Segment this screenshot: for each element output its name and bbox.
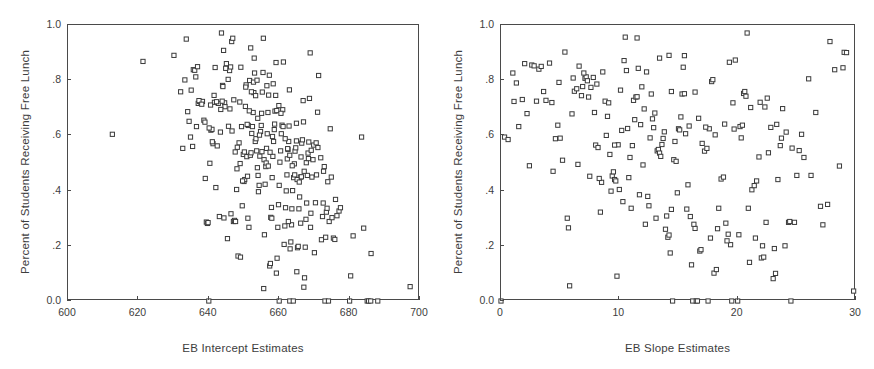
x-tick-mark xyxy=(208,296,209,300)
y-tick-label: .6 xyxy=(470,128,494,140)
y-tick-mark xyxy=(500,300,504,301)
y-tick-mark xyxy=(500,24,504,25)
y-tick-label: .8 xyxy=(37,73,61,85)
x-tick-mark xyxy=(349,296,350,300)
y-tick-mark xyxy=(67,245,71,246)
x-tick-label: 10 xyxy=(612,306,624,318)
y-tick-mark xyxy=(500,190,504,191)
scatter-markers-right xyxy=(501,25,856,301)
y-tick-label: .6 xyxy=(37,128,61,140)
plot-area-right xyxy=(500,24,855,300)
x-tick-mark xyxy=(737,296,738,300)
y-tick-label: .4 xyxy=(470,184,494,196)
x-tick-mark xyxy=(855,296,856,300)
x-tick-label: 700 xyxy=(410,306,428,318)
y-tick-mark xyxy=(500,134,504,135)
x-axis-title-right: EB Slope Estimates xyxy=(500,342,855,354)
y-tick-mark xyxy=(67,190,71,191)
x-tick-label: 600 xyxy=(58,306,76,318)
x-tick-label: 620 xyxy=(129,306,147,318)
x-tick-mark xyxy=(278,296,279,300)
data-points-right xyxy=(501,25,854,299)
y-tick-mark xyxy=(500,245,504,246)
data-points-left xyxy=(68,25,418,299)
scatter-markers-left xyxy=(68,25,420,301)
panel-eb-intercept: Percent of Students Receiving Free Lunch… xyxy=(0,0,437,369)
y-tick-label: .2 xyxy=(37,239,61,251)
x-tick-label: 680 xyxy=(340,306,358,318)
x-axis-title-left: EB Intercept Estimates xyxy=(67,342,419,354)
y-tick-mark xyxy=(67,300,71,301)
y-tick-label: 1.0 xyxy=(37,18,61,30)
x-tick-label: 20 xyxy=(731,306,743,318)
y-axis-title-left: Percent of Students Receiving Free Lunch xyxy=(19,24,31,300)
y-tick-label: .8 xyxy=(470,73,494,85)
x-tick-label: 640 xyxy=(199,306,217,318)
panel-eb-slope: Percent of Students Receiving Free Lunch… xyxy=(437,0,874,369)
y-axis-title-right: Percent of Students Receiving Free Lunch xyxy=(452,24,464,300)
y-tick-label: .4 xyxy=(37,184,61,196)
y-tick-label: .2 xyxy=(470,239,494,251)
x-tick-mark xyxy=(419,296,420,300)
y-tick-label: 0.0 xyxy=(470,294,494,306)
y-tick-label: 1.0 xyxy=(470,18,494,30)
y-tick-mark xyxy=(67,24,71,25)
x-tick-label: 30 xyxy=(849,306,861,318)
x-tick-label: 660 xyxy=(269,306,287,318)
plot-area-left xyxy=(67,24,419,300)
x-tick-label: 0 xyxy=(497,306,503,318)
y-tick-mark xyxy=(67,79,71,80)
scatter-plot-figure: Percent of Students Receiving Free Lunch… xyxy=(0,0,874,369)
x-tick-mark xyxy=(137,296,138,300)
x-tick-mark xyxy=(618,296,619,300)
y-tick-mark xyxy=(500,79,504,80)
y-tick-mark xyxy=(67,134,71,135)
y-tick-label: 0.0 xyxy=(37,294,61,306)
